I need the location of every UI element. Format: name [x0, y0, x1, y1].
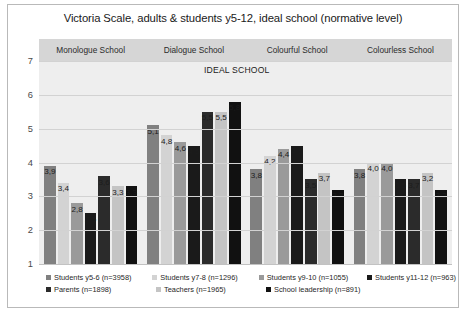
gridline	[39, 61, 452, 62]
bar-value-label: 2,8	[71, 205, 82, 214]
legend-label: Students y5-6 (n=3958)	[54, 273, 131, 282]
y-tick-label: 1	[28, 259, 33, 269]
bar	[422, 173, 434, 264]
gridline	[39, 129, 452, 130]
legend-label: Students y9-10 (n=1055)	[267, 273, 349, 282]
legend-item[interactable]: Students y11-12 (n=963)	[367, 273, 456, 282]
legend-label: School leadership (n=891)	[274, 285, 361, 294]
legend-swatch-icon	[367, 275, 372, 280]
legend-row-1: Students y5-6 (n=3958)Students y7-8 (n=1…	[46, 273, 456, 282]
bar	[367, 163, 379, 265]
legend-item[interactable]: Students y5-6 (n=3958)	[46, 273, 152, 282]
bar-value-label: 4,5	[291, 147, 302, 156]
gridline	[39, 95, 452, 96]
bar-value-label: 3,2	[422, 174, 433, 183]
legend-label: Students y7-8 (n=1296)	[160, 273, 237, 282]
bar	[202, 112, 214, 264]
legend-label: Parents (n=1898)	[54, 285, 111, 294]
y-tick-label: 5	[28, 124, 33, 134]
legend-swatch-icon	[266, 287, 271, 292]
bar-value-label: 4,0	[381, 164, 392, 173]
bar	[332, 190, 344, 264]
legend-swatch-icon	[152, 275, 157, 280]
bar-value-label: 3,9	[44, 167, 55, 176]
plot-area: Monologue SchoolDialogue SchoolColourful…	[39, 39, 452, 264]
bar	[112, 186, 124, 264]
bar	[381, 163, 393, 265]
bar-value-label: 4,6	[175, 144, 186, 153]
bar-value-label: 5,5	[202, 113, 213, 122]
bar	[229, 102, 241, 264]
bar-value-label: 2,5	[85, 215, 96, 224]
bar-value-label: 4,8	[161, 137, 172, 146]
bar-value-label: 4,0	[368, 164, 379, 173]
bar-value-label: 3,4	[58, 184, 69, 193]
legend-swatch-icon	[46, 287, 51, 292]
legend-label: Students y11-12 (n=963)	[375, 273, 456, 282]
y-tick-label: 7	[28, 56, 33, 66]
y-tick-label: 2	[28, 225, 33, 235]
bar	[215, 112, 227, 264]
bar-value-label: 3,6	[99, 178, 110, 187]
bar	[435, 190, 447, 264]
bar	[147, 125, 159, 264]
legend-item[interactable]: School leadership (n=891)	[266, 285, 378, 294]
legend-label: Teachers (n=1965)	[164, 285, 226, 294]
legend-item[interactable]: Students y7-8 (n=1296)	[152, 273, 258, 282]
bar-value-label: 5,5	[215, 113, 226, 122]
bar	[58, 183, 70, 264]
bar	[278, 149, 290, 264]
bar	[395, 179, 407, 264]
bar	[354, 169, 366, 264]
y-tick-label: 6	[28, 90, 33, 100]
legend-swatch-icon	[156, 287, 161, 292]
bar-value-label: 3,7	[408, 181, 419, 190]
bar	[264, 156, 276, 264]
legend-item[interactable]: Parents (n=1898)	[46, 285, 156, 294]
legend-row-2: Parents (n=1898)Teachers (n=1965)School …	[46, 285, 456, 294]
legend-item[interactable]: Teachers (n=1965)	[156, 285, 266, 294]
bar	[44, 166, 56, 264]
bar-value-label: 3,5	[305, 181, 316, 190]
bar-value-label: 3,7	[319, 174, 330, 183]
bar-value-label: 4,5	[188, 147, 199, 156]
y-tick-label: 4	[28, 158, 33, 168]
bar	[408, 179, 420, 264]
bar-value-label: 3,8	[354, 171, 365, 180]
legend-swatch-icon	[46, 275, 51, 280]
chart-title: Victoria Scale, adults & students y5-12,…	[8, 12, 458, 24]
gridline	[39, 163, 452, 164]
ideal-school-annotation: IDEAL SCHOOL	[204, 65, 270, 75]
bar	[98, 176, 110, 264]
bar	[174, 142, 186, 264]
bar-value-label: 3,5	[395, 181, 406, 190]
gridline	[39, 230, 452, 231]
bar-value-label: 3,3	[112, 188, 123, 197]
bar	[318, 173, 330, 264]
bar-value-label: 3,3	[126, 188, 137, 197]
chart-legend: Students y5-6 (n=3958)Students y7-8 (n=1…	[46, 273, 456, 297]
bar	[126, 186, 138, 264]
bar	[305, 179, 317, 264]
bar	[250, 169, 262, 264]
gridline	[39, 196, 452, 197]
bar-value-label: 4,4	[278, 150, 289, 159]
gridline	[39, 264, 452, 265]
bar	[161, 135, 173, 264]
legend-swatch-icon	[259, 275, 264, 280]
bar-value-label: 3,8	[251, 171, 262, 180]
legend-item[interactable]: Students y9-10 (n=1055)	[259, 273, 367, 282]
y-axis-labels: 7654321	[8, 39, 39, 264]
bar-value-label: 5,8	[229, 103, 240, 112]
screenshot-root: Victoria Scale, adults & students y5-12,…	[0, 0, 466, 319]
y-tick-label: 3	[28, 191, 33, 201]
chart-container: Victoria Scale, adults & students y5-12,…	[7, 4, 459, 308]
